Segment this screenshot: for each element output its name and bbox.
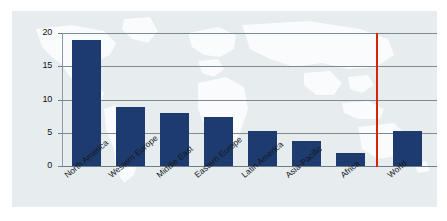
y-axis-label-15: 15 bbox=[22, 61, 52, 70]
plot-area bbox=[62, 33, 437, 166]
y-axis-label-20: 20 bbox=[22, 28, 52, 37]
gridline-20 bbox=[62, 33, 437, 34]
y-axis-label-0: 0 bbox=[22, 161, 52, 170]
chart-panel: 20 15 10 5 0 North America Western Eur bbox=[12, 11, 437, 207]
chart-screenshot: 20 15 10 5 0 North America Western Eur bbox=[0, 0, 447, 221]
y-axis-label-10: 10 bbox=[22, 95, 52, 104]
gridline-10 bbox=[62, 100, 437, 101]
reference-divider-line bbox=[376, 33, 378, 167]
gridline-15 bbox=[62, 66, 437, 67]
y-axis-label-5: 5 bbox=[22, 128, 52, 137]
